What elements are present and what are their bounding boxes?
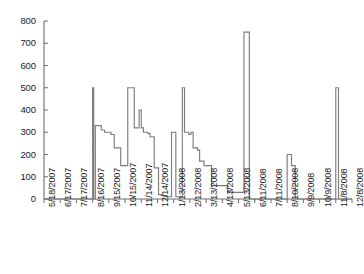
- x-axis-tick-label: 8/10/2008: [291, 168, 300, 207]
- x-axis-tick-label: 5/18/2007: [48, 168, 57, 207]
- x-axis-tick-label: 4/13/2008: [226, 168, 235, 207]
- x-axis-tick-label: 3/13/2008: [210, 168, 219, 207]
- x-axis-tick-label: 12/14/2007: [161, 163, 170, 207]
- chart-plot-area: [0, 0, 364, 274]
- y-axis-tick-label: 800: [2, 16, 36, 26]
- y-axis-tick-label: 300: [2, 127, 36, 137]
- x-axis-tick-label: 5/13/2008: [243, 168, 252, 207]
- x-axis-tick-label: 6/11/2008: [259, 169, 268, 207]
- x-axis-tick-label: 12/8/2008: [356, 168, 364, 207]
- x-axis-tick-label: 10/15/2007: [129, 163, 138, 207]
- y-axis-tick-label: 0: [2, 194, 36, 204]
- y-axis-tick-label: 600: [2, 61, 36, 71]
- x-axis-tick-label: 6/17/2007: [64, 168, 73, 207]
- x-axis-tick-label: 2/12/2008: [194, 168, 203, 207]
- y-axis-tick-label: 500: [2, 83, 36, 93]
- x-axis-tick-label: 7/11/2008: [275, 169, 284, 207]
- x-axis-tick-label: 9/15/2007: [113, 168, 122, 207]
- y-axis-tick-label: 700: [2, 38, 36, 48]
- x-axis-tick-label: 11/8/2008: [340, 169, 349, 207]
- y-axis-tick-label: 200: [2, 150, 36, 160]
- x-axis-tick-label: 10/9/2008: [324, 168, 333, 207]
- x-axis-tick-label: 1/13/2008: [178, 168, 187, 207]
- x-axis-tick-label: 7/17/2007: [80, 168, 89, 207]
- x-axis-tick-label: 11/14/2007: [145, 164, 154, 207]
- chart-container: 0100200300400500600700800 5/18/20076/17/…: [0, 0, 364, 274]
- y-axis-tick-label: 100: [2, 172, 36, 182]
- x-axis-tick-label: 8/16/2007: [97, 168, 106, 207]
- y-axis-tick-label: 400: [2, 105, 36, 115]
- x-axis-tick-label: 9/9/2008: [307, 173, 316, 207]
